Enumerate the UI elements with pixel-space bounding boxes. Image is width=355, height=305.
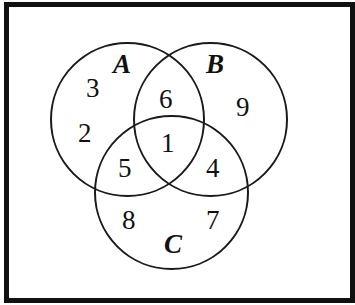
element-9: 9: [236, 92, 250, 122]
set-label-c: C: [164, 229, 183, 259]
element-4: 4: [206, 153, 220, 183]
element-8: 8: [122, 205, 136, 235]
set-label-b: B: [205, 49, 224, 79]
element-3: 3: [86, 73, 100, 103]
element-2: 2: [78, 118, 92, 148]
element-7: 7: [206, 205, 220, 235]
set-label-a: A: [111, 49, 131, 79]
element-6: 6: [159, 84, 173, 114]
element-5: 5: [118, 153, 132, 183]
element-1: 1: [161, 128, 175, 158]
